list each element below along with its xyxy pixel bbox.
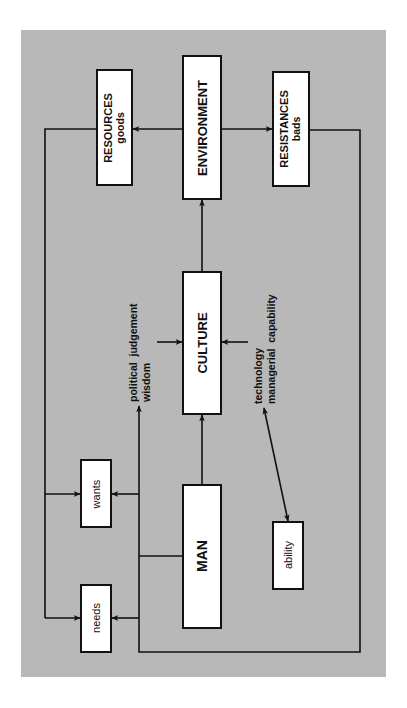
node-culture-label: CULTURE xyxy=(195,312,210,373)
node-resources-label: RESOURCES xyxy=(102,93,114,163)
node-resistances-sublabel: bads xyxy=(290,117,302,142)
node-environment-label: ENVIRONMENT xyxy=(195,80,210,176)
node-needs-label: needs xyxy=(90,603,102,633)
node-resources-sublabel: goods xyxy=(114,112,126,144)
diagram-canvas: RESOURCES goods ENVIRONMENT RESISTANCES … xyxy=(0,0,407,708)
node-wants-label: wants xyxy=(90,479,102,509)
node-man-label: MAN xyxy=(194,540,210,572)
node-resistances-label: RESISTANCES xyxy=(278,90,290,167)
node-ability-label: ability xyxy=(282,540,294,569)
annotation-technology-line2: managerial capability xyxy=(265,294,277,404)
annotation-political-line1: political judgement xyxy=(127,303,139,402)
annotation-political-line2: wisdom xyxy=(140,363,152,403)
annotation-technology-line1: technology xyxy=(252,348,264,404)
